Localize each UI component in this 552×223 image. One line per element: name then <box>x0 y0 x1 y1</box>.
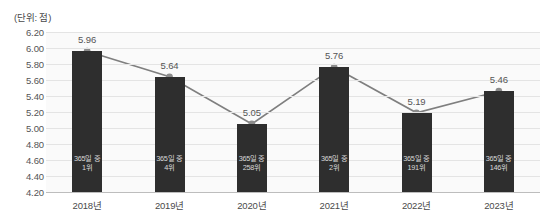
gridline <box>46 160 540 161</box>
bar-rank-annotation: 365일 중191위 <box>391 154 443 173</box>
gridline <box>46 176 540 177</box>
y-axis-tick-label: 4.60 <box>2 155 44 166</box>
x-axis-tick-label: 2022년 <box>402 198 431 212</box>
x-axis-tick-label: 2023년 <box>484 198 513 212</box>
gridline <box>46 48 540 49</box>
bar-rank-annotation: 365일 중2위 <box>308 154 360 173</box>
bar-rank-line2: 146위 <box>473 163 525 172</box>
y-axis-tick-label: 5.80 <box>2 59 44 70</box>
bar-rank-annotation: 365일 중4위 <box>144 154 196 173</box>
y-axis-tick-label: 5.60 <box>2 75 44 86</box>
bar <box>402 113 432 192</box>
chart-container: (단위: 점) 6.206.005.805.605.405.205.004.80… <box>0 0 552 223</box>
x-axis-tick-label: 2019년 <box>155 198 184 212</box>
gridline <box>46 144 540 145</box>
gridline <box>46 112 540 113</box>
gridline <box>46 80 540 81</box>
value-label: 5.46 <box>490 74 508 85</box>
gridline <box>46 32 540 33</box>
value-label: 5.96 <box>78 34 96 45</box>
plot-area: 365일 중1위5.96365일 중4위5.64365일 중258위5.0536… <box>46 32 540 192</box>
gridline <box>46 96 540 97</box>
x-axis-tick-label: 2021년 <box>320 198 349 212</box>
bar-rank-line1: 365일 중 <box>61 154 113 163</box>
value-label: 5.19 <box>407 96 425 107</box>
bar <box>319 67 349 192</box>
bar-rank-annotation: 365일 중146위 <box>473 154 525 173</box>
y-axis: 6.206.005.805.605.405.205.004.804.604.40… <box>0 32 44 192</box>
bar-rank-annotation: 365일 중1위 <box>61 154 113 173</box>
x-axis-tick-label: 2020년 <box>237 198 266 212</box>
bar-rank-line2: 258위 <box>226 163 278 172</box>
bar-rank-line2: 191위 <box>391 163 443 172</box>
x-axis-tick-label: 2018년 <box>73 198 102 212</box>
bar-rank-line1: 365일 중 <box>473 154 525 163</box>
y-axis-tick-label: 6.20 <box>2 27 44 38</box>
y-axis-tick-label: 4.20 <box>2 187 44 198</box>
bar-rank-line2: 1위 <box>61 163 113 172</box>
bar-rank-line2: 2위 <box>308 163 360 172</box>
y-axis-tick-label: 5.00 <box>2 123 44 134</box>
y-axis-tick-label: 4.80 <box>2 139 44 150</box>
trend-line <box>87 51 499 124</box>
bar-rank-line1: 365일 중 <box>391 154 443 163</box>
value-label: 5.05 <box>243 107 261 118</box>
bar <box>484 91 514 192</box>
x-axis: 2018년2019년2020년2021년2022년2023년 <box>46 194 540 220</box>
bar-rank-line1: 365일 중 <box>144 154 196 163</box>
bar-rank-line2: 4위 <box>144 163 196 172</box>
y-axis-tick-label: 4.40 <box>2 171 44 182</box>
unit-label: (단위: 점) <box>14 10 51 24</box>
value-label: 5.64 <box>160 60 178 71</box>
bar-rank-line1: 365일 중 <box>226 154 278 163</box>
gridline <box>46 128 540 129</box>
value-label: 5.76 <box>325 50 343 61</box>
bar <box>155 77 185 192</box>
y-axis-tick-label: 5.40 <box>2 91 44 102</box>
bar-rank-annotation: 365일 중258위 <box>226 154 278 173</box>
y-axis-tick-label: 5.20 <box>2 107 44 118</box>
bar-rank-line1: 365일 중 <box>308 154 360 163</box>
gridline <box>46 192 540 193</box>
y-axis-tick-label: 6.00 <box>2 43 44 54</box>
gridline <box>46 64 540 65</box>
